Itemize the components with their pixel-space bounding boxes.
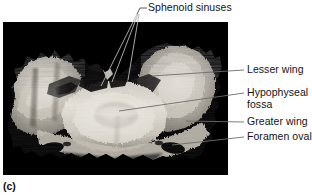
sphenoid-bone-image <box>3 22 228 175</box>
specimen-photograph <box>3 22 228 175</box>
label-hypophyseal-fossa: Hypophyseal fossa <box>247 87 312 110</box>
figure-container: Sphenoid sinuses Lesser wing Hypophyseal… <box>0 0 312 195</box>
label-hypophyseal-fossa-line2: fossa <box>247 98 272 110</box>
label-lesser-wing: Lesser wing <box>247 64 304 76</box>
label-greater-wing: Greater wing <box>247 116 308 128</box>
figure-part-letter: (c) <box>3 180 16 192</box>
label-foramen-ovale: Foramen ovale <box>247 131 312 143</box>
leader-sphenoid-sinuses-elbow <box>137 8 147 14</box>
label-sphenoid-sinuses: Sphenoid sinuses <box>148 2 232 14</box>
label-hypophyseal-fossa-line1: Hypophyseal <box>247 86 308 98</box>
